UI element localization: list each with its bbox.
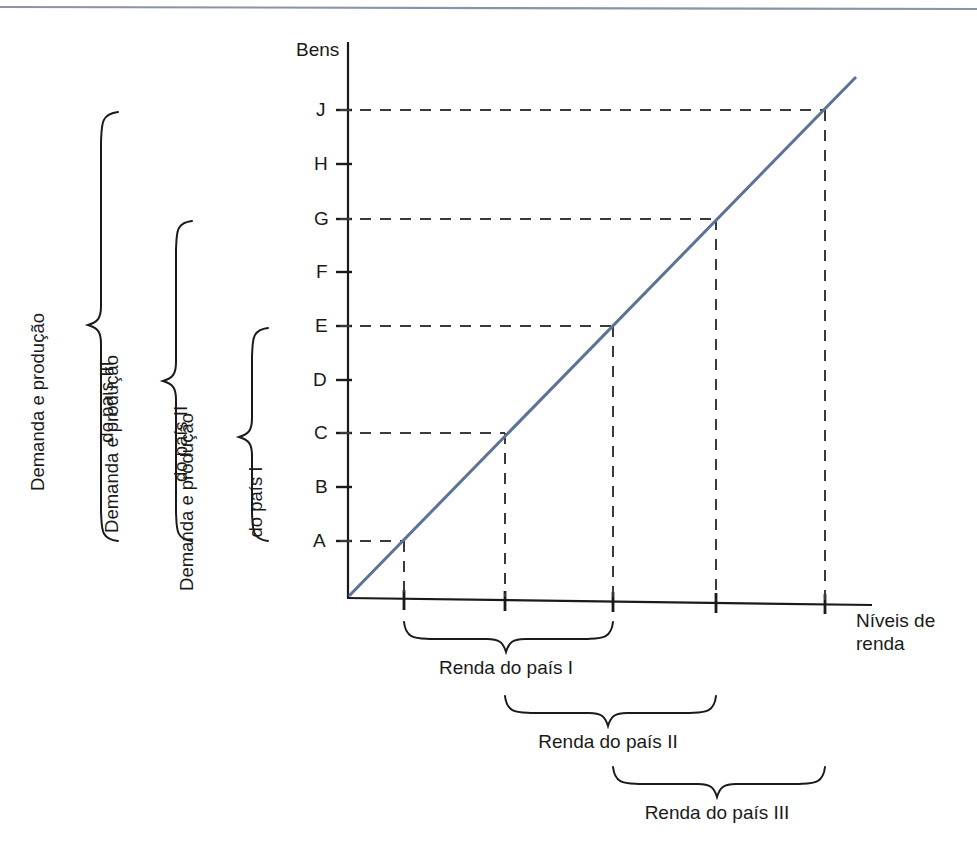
y-tick-label-H: H <box>314 153 328 175</box>
x-brace-label-iii: Renda do país III <box>617 801 817 824</box>
x-brace-label-ii: Renda do país II <box>508 730 708 753</box>
demand-production-line <box>349 77 856 596</box>
y-tick-label-D: D <box>313 369 327 391</box>
x-brace-ii <box>505 696 716 726</box>
x-brace-iii <box>613 767 825 797</box>
top-rule <box>0 7 977 9</box>
x-axis-title-line1: Níveis de <box>856 609 935 632</box>
x-brace-label-i: Renda do país I <box>406 656 606 679</box>
y-axis-title: Bens <box>296 38 339 61</box>
y-tick-label-G: G <box>314 208 329 230</box>
y-tick-label-C: C <box>314 422 328 444</box>
y-brace-label-iii-line1: Demanda e produção <box>26 277 49 527</box>
y-brace-label-ii-line1: Demanda e produção <box>100 319 123 569</box>
figure-canvas: Bens Níveis de renda J H G F E D C B A D… <box>0 0 977 855</box>
y-tick-label-E: E <box>315 315 328 337</box>
x-braces-group <box>404 622 825 797</box>
x-axis-title-line2: renda <box>856 632 905 655</box>
axes-group <box>347 42 872 605</box>
y-tick-label-B: B <box>315 476 328 498</box>
x-brace-i <box>404 622 613 652</box>
y-tick-label-A: A <box>313 530 326 552</box>
y-tick-label-J: J <box>316 99 326 121</box>
y-brace-label-i: Demanda e produção do país I <box>129 377 313 627</box>
y-brace-label-i-line1: Demanda e produção <box>175 377 198 627</box>
y-tick-label-F: F <box>316 261 328 283</box>
x-axis-line <box>347 598 872 605</box>
y-brace-label-i-line2: do país I <box>244 377 267 627</box>
